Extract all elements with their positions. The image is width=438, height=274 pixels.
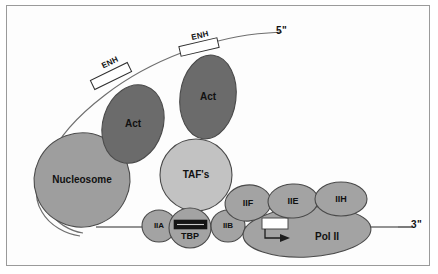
- transcription-start-site-box: [262, 218, 288, 229]
- tafs-body: [160, 139, 232, 211]
- transcription-complex-diagram: [0, 0, 438, 274]
- enhancer-box-distal: [90, 63, 131, 90]
- activator-2-body: [175, 52, 241, 142]
- figure-canvas: ENH ENH 5" 3" Nucleosome Act Act TAF's T…: [0, 0, 438, 274]
- tfiih-body: [315, 182, 367, 216]
- enhancer-box-proximal: [179, 38, 219, 57]
- dna-five-prime-tip: [268, 32, 282, 33]
